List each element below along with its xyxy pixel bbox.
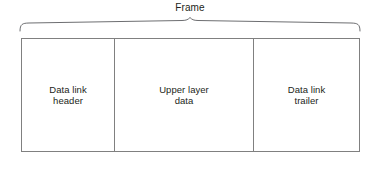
frame-outer-box: Data link header Upper layer data Data l… [21,38,360,152]
frame-cell-label: Data link trailer [288,84,325,107]
frame-cell-label: Data link header [49,84,86,107]
frame-structure-diagram: Frame Data link header Upper layer data … [0,0,380,169]
frame-cell-label: Upper layer data [159,84,209,107]
frame-cell-data-link-trailer: Data link trailer [254,39,359,151]
frame-cell-data-link-header: Data link header [22,39,114,151]
frame-cell-upper-layer-data: Upper layer data [114,39,254,151]
frame-title-label: Frame [0,2,380,14]
